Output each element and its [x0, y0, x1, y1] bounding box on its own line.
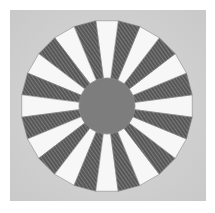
quilt-block-illustration — [0, 0, 215, 213]
quilt-photo — [0, 0, 215, 213]
center-circle — [79, 78, 135, 134]
